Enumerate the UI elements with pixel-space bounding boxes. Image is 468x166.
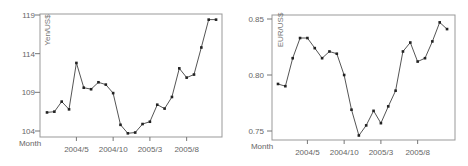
data-point-marker <box>291 57 294 60</box>
data-point-marker <box>185 76 188 79</box>
data-point-marker <box>53 110 56 113</box>
x-tick-label: 2005/3 <box>369 148 394 157</box>
data-point-marker <box>277 83 280 86</box>
data-point-marker <box>119 124 122 127</box>
data-point-marker <box>336 52 339 55</box>
data-point-marker <box>141 123 144 126</box>
data-point-marker <box>365 124 368 127</box>
data-point-marker <box>409 41 412 44</box>
data-point-marker <box>394 89 397 92</box>
plot-frame <box>272 15 455 140</box>
data-point-marker <box>207 18 210 21</box>
data-point-marker <box>127 132 130 135</box>
data-point-marker <box>424 57 427 60</box>
data-point-marker <box>68 108 71 111</box>
data-point-marker <box>416 60 419 63</box>
y-tick-label: 109 <box>22 88 36 97</box>
y-tick-label: 0.85 <box>248 15 264 24</box>
data-point-marker <box>446 28 449 31</box>
data-point-marker <box>328 50 331 53</box>
yen-chart: 1041091141192004/52004/102005/32005/8Mon… <box>19 11 222 154</box>
x-tick-label: 2005/8 <box>405 148 430 157</box>
series-line <box>47 20 216 134</box>
data-point-marker <box>156 103 159 106</box>
data-point-marker <box>97 81 100 84</box>
data-point-marker <box>284 85 287 88</box>
x-tick-label: 2004/5 <box>295 148 320 157</box>
y-tick-label: 114 <box>22 50 35 59</box>
series-line <box>278 22 447 135</box>
data-point-marker <box>387 105 390 108</box>
y-tick-label: 0.80 <box>248 71 264 80</box>
y-axis-label: EUR/US$ <box>276 12 285 47</box>
data-point-marker <box>438 21 441 24</box>
data-point-marker <box>431 40 434 43</box>
data-point-marker <box>306 37 309 40</box>
data-point-marker <box>313 47 316 50</box>
data-point-marker <box>178 67 181 70</box>
data-point-marker <box>358 134 361 137</box>
y-axis-label: Yen/US$ <box>43 14 52 46</box>
exchange-rate-charts: 1041091141192004/52004/102005/32005/8Mon… <box>0 0 468 166</box>
data-point-marker <box>193 73 196 76</box>
y-tick-label: 0.75 <box>248 127 264 136</box>
data-point-marker <box>299 37 302 40</box>
x-tick-label: 2004/10 <box>330 148 359 157</box>
data-point-marker <box>372 110 375 113</box>
x-tick-label: 2004/10 <box>99 145 128 154</box>
eur-chart: 0.750.800.852004/52004/102005/32005/8Mon… <box>248 12 455 157</box>
x-tick-label: 2004/5 <box>64 145 89 154</box>
data-point-marker <box>163 107 166 110</box>
x-tick-label: 2005/8 <box>174 145 199 154</box>
y-tick-label: 104 <box>22 127 36 136</box>
x-tick-label: 2005/3 <box>138 145 163 154</box>
data-point-marker <box>46 111 49 114</box>
data-point-marker <box>343 74 346 77</box>
data-point-marker <box>112 92 115 95</box>
data-point-marker <box>134 131 137 134</box>
data-point-marker <box>380 122 383 125</box>
data-point-marker <box>90 88 93 91</box>
data-point-marker <box>149 120 152 123</box>
data-point-marker <box>105 83 108 86</box>
data-point-marker <box>321 57 324 60</box>
y-tick-label: 119 <box>22 11 35 20</box>
x-axis-label: Month <box>19 139 41 148</box>
data-point-marker <box>402 50 405 53</box>
data-point-marker <box>171 96 174 99</box>
data-point-marker <box>60 100 63 103</box>
x-axis-label: Month <box>251 142 273 151</box>
data-point-marker <box>350 108 353 111</box>
data-point-marker <box>82 86 85 89</box>
data-point-marker <box>200 46 203 49</box>
data-point-marker <box>215 18 218 21</box>
data-point-marker <box>75 62 78 65</box>
